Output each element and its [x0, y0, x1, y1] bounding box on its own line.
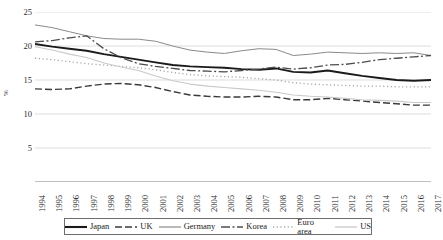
x-axis-tick-2011: 2011	[331, 195, 340, 212]
x-axis-tick-2009: 2009	[296, 195, 305, 212]
x-axis-tick-2013: 2013	[365, 195, 374, 212]
x-axis-tick-2010: 2010	[313, 195, 322, 212]
y-axis-tick-5: 5	[10, 144, 32, 153]
legend-item-germany[interactable]: Germany	[159, 222, 216, 231]
legend-swatch-germany	[159, 223, 181, 231]
y-axis-tick-20: 20	[10, 42, 32, 51]
legend-item-korea[interactable]: Korea	[221, 222, 267, 231]
legend-swatch-korea	[221, 223, 243, 231]
x-axis-tick-2001: 2001	[159, 195, 168, 212]
x-axis-tick-1995: 1995	[55, 195, 64, 212]
legend-swatch-us	[335, 223, 357, 231]
series-line-germany	[35, 25, 431, 56]
x-axis-tick-2015: 2015	[400, 195, 409, 212]
y-axis-tick-10: 10	[10, 110, 32, 119]
x-axis-tick-2008: 2008	[279, 195, 288, 212]
x-axis-tick-1996: 1996	[72, 195, 81, 212]
x-axis-tick-2006: 2006	[245, 195, 254, 212]
chart-svg	[35, 12, 431, 182]
series-line-korea	[35, 36, 431, 72]
x-axis-tick-2002: 2002	[176, 195, 185, 212]
legend-label: Korea	[246, 222, 267, 231]
x-axis-tick-2012: 2012	[348, 195, 357, 212]
legend-item-us[interactable]: US	[335, 222, 371, 231]
x-axis-tick-labels: 1994199519961997199819992000200120022003…	[35, 184, 431, 216]
x-axis-tick-2005: 2005	[227, 195, 236, 212]
x-axis-tick-1997: 1997	[90, 195, 99, 212]
y-axis-tick-25: 25	[10, 8, 32, 17]
y-axis-tick-labels: 510152025	[8, 0, 32, 240]
legend-swatch-euro-area	[273, 223, 294, 231]
legend-swatch-uk	[115, 223, 137, 231]
x-axis-tick-2017: 2017	[434, 195, 443, 212]
chart-legend: JapanUKGermanyKoreaEuro areaUS	[64, 218, 372, 235]
series-line-japan	[35, 44, 431, 81]
x-axis-tick-2000: 2000	[141, 195, 150, 212]
series-line-euro-area	[35, 58, 431, 87]
y-axis-tick-15: 15	[10, 76, 32, 85]
legend-swatch-japan	[65, 223, 87, 231]
x-axis-tick-1994: 1994	[38, 195, 47, 212]
x-axis-tick-1999: 1999	[124, 195, 133, 212]
plot-area	[35, 12, 431, 182]
legend-item-japan[interactable]: Japan	[65, 222, 109, 231]
series-line-us	[35, 47, 431, 103]
series-line-uk	[35, 83, 431, 105]
legend-label: Japan	[90, 222, 109, 231]
legend-item-uk[interactable]: UK	[115, 222, 152, 231]
legend-label: UK	[140, 222, 152, 231]
x-axis-tick-2014: 2014	[382, 195, 391, 212]
x-axis-tick-2004: 2004	[210, 195, 219, 212]
legend-item-euro-area[interactable]: Euro area	[273, 218, 329, 235]
legend-label: Euro area	[297, 218, 329, 235]
x-axis-tick-1998: 1998	[107, 195, 116, 212]
x-axis-tick-2007: 2007	[262, 195, 271, 212]
legend-label: US	[360, 222, 371, 231]
x-axis-tick-2003: 2003	[193, 195, 202, 212]
x-axis-tick-2016: 2016	[417, 195, 426, 212]
legend-label: Germany	[184, 222, 216, 231]
